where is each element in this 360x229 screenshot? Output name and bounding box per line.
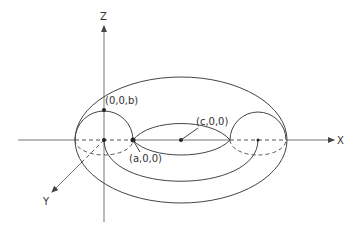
leader-c-0-0 <box>181 128 198 140</box>
torus-diagram: Z X Y (0,0,b) (a,0,0) (c,0,0) <box>0 0 360 229</box>
point-origin <box>102 138 106 142</box>
label-0-0-b: (0,0,b) <box>105 95 138 106</box>
point-right-tube-center <box>257 139 260 142</box>
x-axis-label: X <box>337 135 344 146</box>
point-0-0-b <box>102 108 106 112</box>
torus-front-mid-arc <box>104 140 258 181</box>
y-axis: Y <box>42 140 104 207</box>
z-axis: Z <box>100 11 107 222</box>
z-axis-label: Z <box>100 11 107 22</box>
right-tube-section <box>230 112 286 155</box>
y-axis-label: Y <box>42 196 50 207</box>
label-c-0-0: (c,0,0) <box>196 116 228 127</box>
leader-a-0-0 <box>133 140 140 152</box>
label-a-0-0: (a,0,0) <box>129 153 162 164</box>
